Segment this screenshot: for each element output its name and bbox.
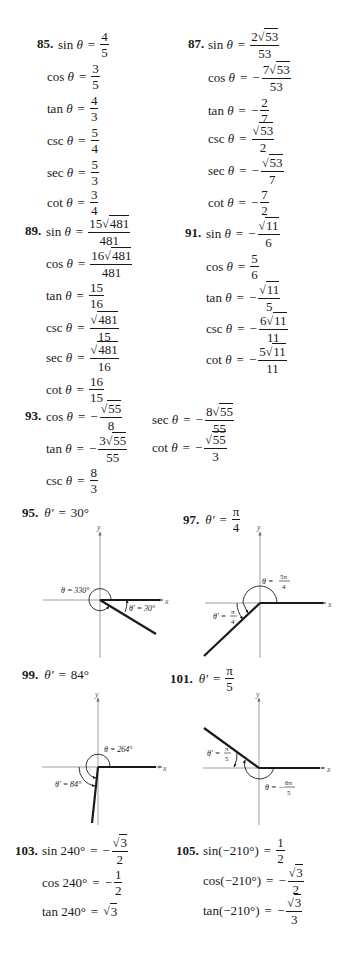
answer-row: 101.θ′=π5 <box>170 664 234 693</box>
svg-text:π: π <box>231 608 235 616</box>
equation-row: sec θ=√48116 <box>46 343 119 373</box>
svg-text:θ′ = 30°: θ′ = 30° <box>129 604 156 613</box>
svg-text:θ = 264°: θ = 264° <box>104 745 133 754</box>
equation-row: tan θ=−√115 <box>206 283 280 313</box>
equation-row: tan 240°=√3 <box>42 903 117 920</box>
svg-text:y: y <box>256 523 261 532</box>
problem-number: 87. <box>188 36 204 52</box>
equation-row: cot θ=−5√1111 <box>206 345 287 375</box>
problem-number: 93. <box>25 408 41 424</box>
equation-row: tan θ=1516 <box>46 281 104 310</box>
problem-number: 91. <box>185 225 201 241</box>
equation-row: csc θ=√532 <box>208 124 274 154</box>
equation-row: cot θ=1615 <box>46 375 104 404</box>
equation-row: cos θ=−√558 <box>46 402 122 432</box>
answer-row: 95.θ′=30° <box>22 505 89 521</box>
equation-row: cot θ=34 <box>47 188 98 217</box>
answer-row: 99.θ′=84° <box>22 667 89 683</box>
svg-text:θ′ =: θ′ = <box>213 612 226 621</box>
equation-row: tan θ=−3√5555 <box>46 434 127 464</box>
svg-text:4: 4 <box>231 618 235 626</box>
svg-text:y: y <box>255 690 260 699</box>
equation-row: cos θ=16√481481 <box>46 249 132 279</box>
svg-text:x: x <box>326 765 331 774</box>
problem-number: 105. <box>176 843 199 859</box>
equation-row: csc θ=−6√1111 <box>206 314 288 344</box>
equation-row: tan θ=−27 <box>208 96 269 125</box>
svg-text:5: 5 <box>225 755 229 763</box>
svg-text:π: π <box>225 745 229 753</box>
equation-row: sin 240°=−√32 <box>42 836 128 866</box>
svg-text:5π: 5π <box>280 573 288 581</box>
equation-row: cot θ=−72 <box>208 188 269 217</box>
equation-row: csc θ=√48115 <box>46 313 119 343</box>
equation-row: cos θ=35 <box>47 62 100 91</box>
equation-row: sin θ=45 <box>58 30 109 59</box>
equation-row: csc θ=83 <box>46 466 98 495</box>
equation-row: sin θ=15√481481 <box>46 217 130 247</box>
angle-diagram-264: x y θ = 264° θ′ = 84° <box>0 690 169 830</box>
angle-diagram-5pi-4: x y θ = 5π 4 θ′ = π 4 <box>169 520 338 660</box>
equation-row: csc θ=54 <box>47 126 99 155</box>
svg-text:5: 5 <box>287 789 291 797</box>
angle-diagram-neg-6pi-5: x y θ′ = π 5 θ = − 6π 5 <box>169 690 338 830</box>
equation-row: cos θ=56 <box>206 252 259 281</box>
equation-row: sin θ=−√116 <box>206 219 280 249</box>
svg-text:θ = 330°: θ = 330° <box>61 586 90 595</box>
equation-row: tan(−210°)=−√33 <box>203 896 302 926</box>
svg-text:θ′ = 84°: θ′ = 84° <box>55 780 82 789</box>
ref-arc <box>125 600 127 612</box>
equation-row: tan θ=43 <box>47 94 98 123</box>
equation-row: sin(−210°)=12 <box>203 836 285 865</box>
svg-text:4: 4 <box>282 583 286 591</box>
svg-text:θ = −: θ = − <box>265 783 284 792</box>
svg-text:x: x <box>327 600 332 609</box>
problem-number: 103. <box>15 843 38 859</box>
equation-row: cos(−210°)=−√32 <box>203 866 304 896</box>
equation-row: sec θ=−√537 <box>208 156 284 186</box>
equation-row: cot θ=−√553 <box>152 433 227 463</box>
equation-row: sin θ=2√5353 <box>208 30 279 60</box>
svg-text:θ′ =: θ′ = <box>207 749 220 758</box>
svg-text:6π: 6π <box>285 779 293 787</box>
equation-row: cos θ=−7√5353 <box>208 63 291 93</box>
svg-text:y: y <box>94 690 99 699</box>
equation-row: cos 240°=−12 <box>42 868 122 897</box>
svg-text:y: y <box>96 523 101 532</box>
svg-text:θ =: θ = <box>262 577 273 586</box>
equation-row: sec θ=53 <box>47 158 99 187</box>
svg-text:x: x <box>162 764 167 773</box>
problem-number: 85. <box>37 36 53 52</box>
angle-diagram-330: x y θ = 330° θ′ = 30° <box>0 520 169 660</box>
problem-number: 89. <box>25 223 41 239</box>
